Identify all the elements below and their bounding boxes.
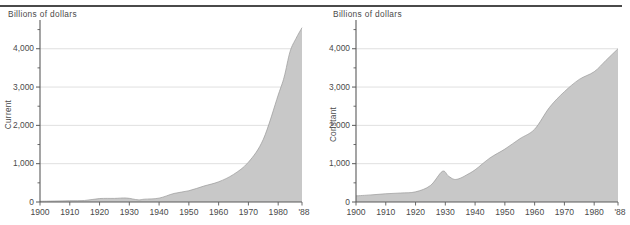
x-tick-label: 1930: [114, 207, 144, 217]
y-tick-label: 0: [310, 197, 350, 207]
x-tick-label: 1940: [144, 207, 174, 217]
x-tick-label: 1980: [263, 207, 293, 217]
x-tick-label: 1970: [549, 207, 579, 217]
chart-panel-constant: Billions of dollars 01,0002,0003,0004,00…: [311, 0, 622, 225]
y-tick-label: 3,000: [0, 82, 34, 92]
x-tick-label: 1920: [85, 207, 115, 217]
y-tick-label: 1,000: [0, 158, 34, 168]
x-tick-label: 1960: [204, 207, 234, 217]
y-tick-label: 0: [0, 197, 34, 207]
x-tick-label: 1950: [490, 207, 520, 217]
y-axis-title-constant: Constant: [329, 103, 338, 147]
y-tick-label: 2,000: [0, 120, 34, 130]
x-tick-label: 1940: [460, 207, 490, 217]
area-chart-current: [0, 0, 311, 225]
x-tick-label: 1970: [233, 207, 263, 217]
y-tick-label: 4,000: [0, 43, 34, 53]
x-tick-label: 1910: [55, 207, 85, 217]
x-tick-label: 1900: [25, 207, 55, 217]
x-tick-label: 1920: [401, 207, 431, 217]
area-chart-constant: [311, 0, 622, 225]
x-tick-label: '88: [610, 207, 630, 217]
x-tick-label: 1910: [371, 207, 401, 217]
x-tick-label: 1930: [430, 207, 460, 217]
x-tick-label: 1900: [341, 207, 371, 217]
y-tick-label: 3,000: [310, 82, 350, 92]
chart-panel-current: Billions of dollars Current 01,0002,0003…: [0, 0, 311, 225]
x-tick-label: 1950: [174, 207, 204, 217]
y-tick-label: 4,000: [310, 43, 350, 53]
x-tick-label: 1980: [579, 207, 609, 217]
x-tick-label: 1960: [520, 207, 550, 217]
y-tick-label: 1,000: [310, 158, 350, 168]
